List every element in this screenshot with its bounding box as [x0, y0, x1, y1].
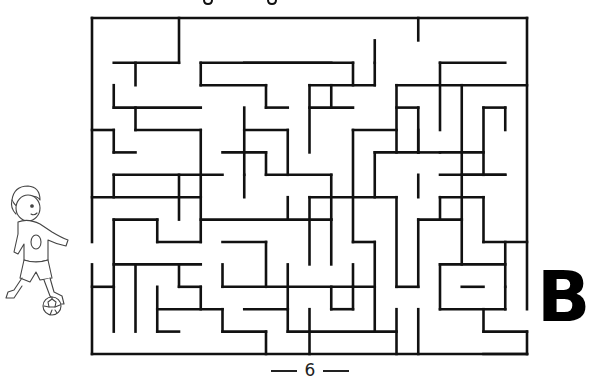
page-number: 6	[260, 360, 360, 380]
page-number-text: 6	[305, 360, 316, 380]
exit-label-b: B	[537, 262, 590, 332]
soccer-kid-icon	[0, 182, 90, 317]
maze-walls	[92, 18, 527, 354]
dash-right	[323, 370, 349, 372]
dash-left	[271, 370, 297, 372]
